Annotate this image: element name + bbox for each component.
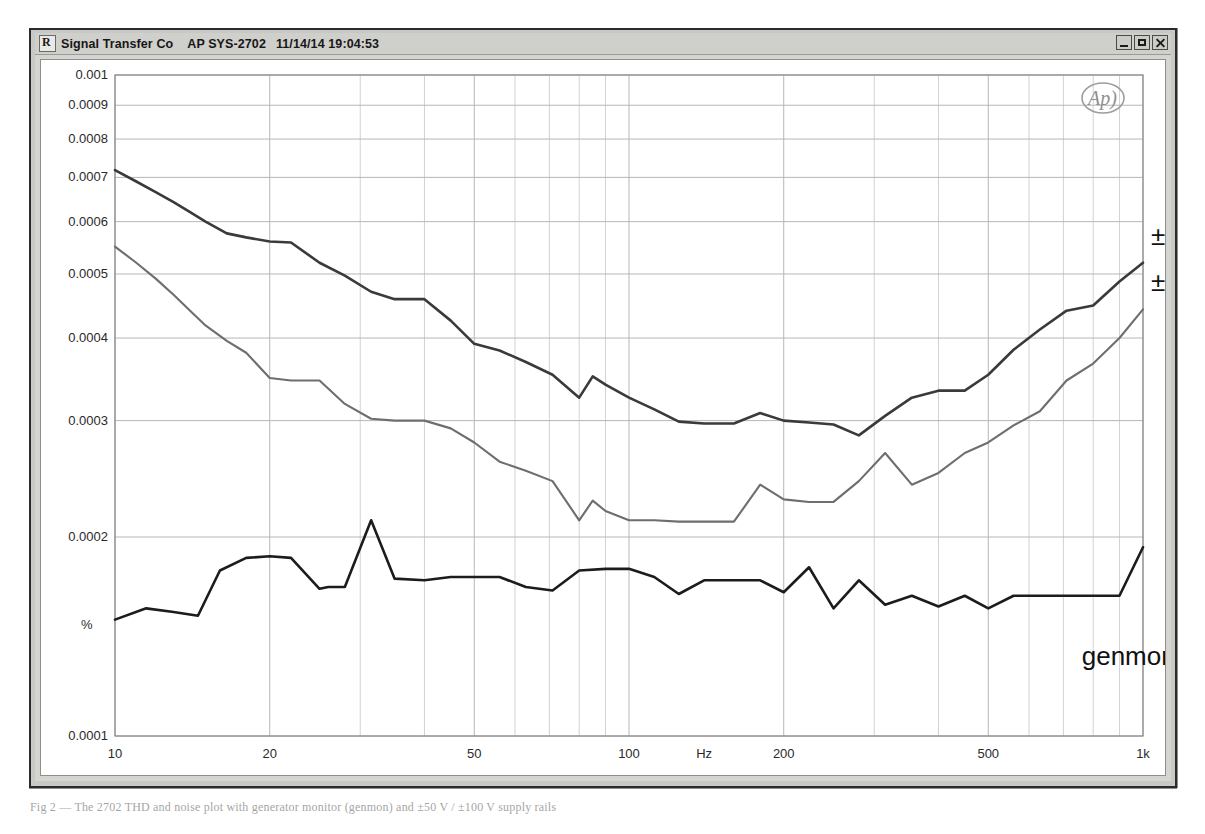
minimize-button[interactable]: [1116, 35, 1132, 50]
maximize-icon: [1135, 36, 1149, 49]
y-tick-label: 0.001: [75, 67, 108, 82]
grid-major-layer: [115, 75, 1143, 736]
y-tick-label: 0.0003: [68, 413, 108, 428]
maximize-button[interactable]: [1134, 35, 1150, 50]
x-axis-unit-label: Hz: [696, 746, 712, 761]
page-root: Signal Transfer Co AP SYS-2702 11/14/14 …: [0, 0, 1205, 834]
title-company: Signal Transfer Co: [61, 37, 173, 51]
figure-caption: Fig 2 — The 2702 THD and noise plot with…: [30, 797, 1180, 827]
series-label-1: ±100: [1151, 221, 1165, 251]
x-tick-label: 500: [977, 746, 999, 761]
y-tick-label: 0.0009: [68, 97, 108, 112]
title-bar[interactable]: Signal Transfer Co AP SYS-2702 11/14/14 …: [35, 33, 1171, 55]
x-axis-tick-labels: 1020501002005001k: [108, 746, 1151, 761]
y-tick-label: 0.0002: [68, 529, 108, 544]
title-timestamp: 11/14/14 19:04:53: [276, 37, 379, 51]
y-tick-label: 0.0006: [68, 214, 108, 229]
application-window: Signal Transfer Co AP SYS-2702 11/14/14 …: [29, 28, 1177, 788]
y-axis-tick-labels: 0.00010.00020.00030.00040.00050.00060.00…: [68, 67, 108, 743]
minimize-icon: [1117, 36, 1131, 49]
title-model: AP SYS-2702: [187, 37, 266, 51]
x-tick-label: 10: [108, 746, 122, 761]
y-tick-label: 0.0001: [68, 728, 108, 743]
y-tick-label: 0.0005: [68, 266, 108, 281]
y-tick-label: 0.0008: [68, 131, 108, 146]
plot-client-area: 0.00010.00020.00030.00040.00050.00060.00…: [40, 59, 1166, 776]
y-tick-label: 0.0004: [68, 330, 108, 345]
figure-caption-text: Fig 2 — The 2702 THD and noise plot with…: [30, 800, 556, 814]
y-axis-unit-label: %: [81, 617, 93, 632]
thd-noise-plot: 0.00010.00020.00030.00040.00050.00060.00…: [41, 60, 1165, 775]
curve-labels: ±100±50genmon: [1082, 221, 1165, 671]
x-tick-label: 100: [618, 746, 640, 761]
ap-logo-text: Ap): [1086, 87, 1117, 110]
x-tick-label: 200: [773, 746, 795, 761]
x-tick-label: 20: [262, 746, 276, 761]
close-button[interactable]: [1152, 35, 1168, 50]
window-controls: [1116, 35, 1168, 50]
x-tick-label: 50: [467, 746, 481, 761]
x-tick-label: 1k: [1136, 746, 1150, 761]
ap-logo: Ap): [1082, 83, 1124, 113]
series-label-2: ±50: [1151, 267, 1165, 297]
window-inner-frame: Signal Transfer Co AP SYS-2702 11/14/14 …: [35, 33, 1171, 781]
y-tick-label: 0.0007: [68, 169, 108, 184]
close-icon: [1153, 36, 1167, 49]
app-icon: [39, 35, 56, 52]
series-label-3: genmon: [1082, 641, 1165, 671]
